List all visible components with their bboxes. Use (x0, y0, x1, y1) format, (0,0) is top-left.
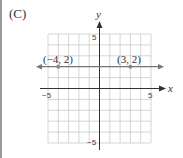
point-label-neg4-2: (−4, 2) (43, 53, 73, 66)
y-tick-neg5: −5 (87, 138, 97, 147)
x-axis-label: x (167, 82, 173, 94)
y-tick-pos5: 5 (92, 33, 97, 42)
y-axis-arrow-icon (97, 21, 103, 28)
point-3-2 (128, 65, 132, 69)
x-tick-neg5: −5 (42, 91, 52, 100)
coordinate-graph: x y −5 5 5 −5 (−4, 2) (3, 2) (0, 0, 183, 158)
x-tick-pos5: 5 (148, 91, 153, 100)
y-axis-label: y (95, 8, 101, 20)
line-left-arrow-icon (36, 64, 42, 69)
x-axis-arrow-icon (159, 86, 166, 92)
point-neg4-2 (56, 65, 60, 69)
point-label-3-2: (3, 2) (117, 53, 141, 66)
line-right-arrow-icon (158, 64, 164, 69)
